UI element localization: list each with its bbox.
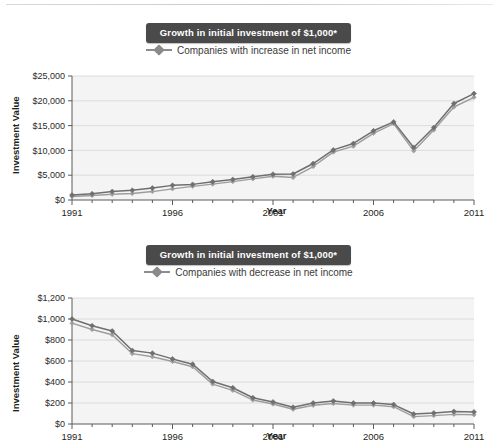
- y-axis-tick-label: $20,000: [32, 96, 65, 106]
- y-axis-tick-label: $15,000: [32, 121, 65, 131]
- y-axis-tick-label: $0: [55, 195, 65, 205]
- plot-background: [72, 76, 474, 200]
- figure-page: Growth in initial investment of $1,000* …: [0, 0, 497, 445]
- y-axis-tick-label: $25,000: [32, 71, 65, 81]
- page-top-rule: [6, 4, 493, 5]
- y-axis-tick-label: $600: [45, 356, 65, 366]
- x-axis-tick-label: 1991: [61, 431, 82, 442]
- plot-svg-top: $0$5,000$10,000$15,000$20,000$25,0001991…: [0, 14, 497, 222]
- y-axis-tick-label: $400: [45, 377, 65, 387]
- x-axis-tick-label: 2001: [262, 207, 283, 218]
- chart-decrease-in-net-income: Growth in initial investment of $1,000* …: [0, 236, 497, 445]
- chart-increase-in-net-income: Growth in initial investment of $1,000* …: [0, 14, 497, 222]
- y-axis-tick-label: $0: [55, 419, 65, 429]
- x-axis-tick-label: 2001: [262, 431, 283, 442]
- x-axis-tick-label: 2011: [464, 431, 484, 442]
- y-axis-tick-label: $10,000: [32, 146, 65, 156]
- x-axis-tick-label: 2006: [363, 431, 384, 442]
- x-axis-tick-label: 1996: [162, 431, 183, 442]
- plot-area-bottom: $0$200$400$600$800$1,000$1,2001991199620…: [0, 236, 497, 445]
- x-axis-tick-label: 2006: [363, 207, 384, 218]
- x-axis-tick-label: 1996: [162, 207, 183, 218]
- x-axis-tick-label: 1991: [61, 207, 82, 218]
- plot-area-top: $0$5,000$10,000$15,000$20,000$25,0001991…: [0, 14, 497, 222]
- y-axis-tick-label: $800: [45, 335, 65, 345]
- plot-svg-bottom: $0$200$400$600$800$1,000$1,2001991199620…: [0, 236, 497, 445]
- y-axis-tick-label: $1,200: [37, 293, 65, 303]
- y-axis-tick-label: $1,000: [37, 314, 65, 324]
- x-axis-tick-label: 2011: [464, 207, 484, 218]
- y-axis-tick-label: $5,000: [37, 170, 65, 180]
- y-axis-tick-label: $200: [45, 398, 65, 408]
